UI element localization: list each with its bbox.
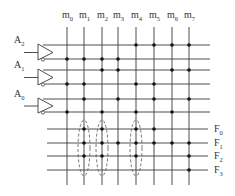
connection-dot [170, 68, 174, 72]
connection-dot [82, 57, 86, 61]
minterm-columns: m0m1m2m3m4m5m6m7 [62, 9, 196, 185]
connection-dot [100, 154, 104, 158]
connection-dot [65, 82, 69, 86]
column-label-m3: m3 [113, 9, 124, 22]
connection-dot [82, 141, 86, 145]
output-rows: F0F1F2F3 [47, 123, 223, 177]
connection-dot [65, 57, 69, 61]
connection-dot [65, 110, 69, 114]
connection-dot [187, 43, 191, 47]
column-label-m5: m5 [149, 9, 160, 22]
connection-dot [82, 154, 86, 158]
connection-dot [82, 97, 86, 101]
connection-dot [187, 68, 191, 72]
connection-dot [116, 57, 120, 61]
input-label-a1: A1 [14, 59, 24, 72]
buffer-icon [38, 44, 53, 60]
column-label-m4: m4 [131, 9, 143, 22]
input-label-a0: A0 [14, 88, 24, 101]
connection-dot [116, 141, 120, 145]
connection-dot [152, 97, 156, 101]
output-label-f1: F1 [214, 137, 223, 150]
connection-dot [170, 43, 174, 47]
inverter-bubble-icon [41, 58, 44, 61]
connection-dot [187, 97, 191, 101]
connection-dot [187, 168, 191, 172]
connection-dot [170, 110, 174, 114]
buffer-icon [38, 69, 53, 85]
connection-dot [187, 154, 191, 158]
connection-dot [82, 127, 86, 131]
decoder-diagram: m0m1m2m3m4m5m6m7 A2A1A0 F0F1F2F3 [0, 0, 235, 196]
column-label-m1: m1 [79, 9, 90, 22]
connection-dot [116, 68, 120, 72]
input-label-a2: A2 [14, 34, 24, 47]
connection-dot [134, 127, 138, 131]
connection-dot [187, 141, 191, 145]
connection-dot [134, 141, 138, 145]
connection-dot [134, 110, 138, 114]
grouping-ellipses [78, 120, 142, 176]
connection-dot [152, 82, 156, 86]
connection-dot [134, 43, 138, 47]
connection-dot [100, 68, 104, 72]
connection-dot [100, 127, 104, 131]
connection-dot [152, 141, 156, 145]
connection-dot [100, 110, 104, 114]
connection-dot [100, 141, 104, 145]
column-label-m0: m0 [62, 9, 73, 22]
column-label-m6: m6 [167, 9, 179, 22]
output-label-f2: F2 [214, 150, 223, 163]
connection-dot [82, 82, 86, 86]
inverter-bubble-icon [41, 111, 44, 114]
connection-dot [134, 82, 138, 86]
inverter-bubble-icon [41, 83, 44, 86]
connection-dot [116, 97, 120, 101]
connection-dot [152, 127, 156, 131]
column-label-m2: m2 [97, 9, 108, 22]
connection-dot [134, 154, 138, 158]
connection-dot [152, 43, 156, 47]
output-label-f0: F0 [214, 123, 223, 136]
input-rows: A2A1A0 [14, 34, 210, 114]
buffer-icon [38, 98, 53, 113]
connection-dot [170, 141, 174, 145]
connection-dot [100, 57, 104, 61]
output-label-f3: F3 [214, 164, 223, 177]
column-label-m7: m7 [184, 9, 196, 22]
